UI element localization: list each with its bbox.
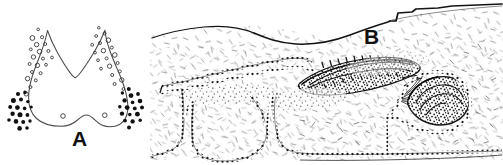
filled-dot-marker xyxy=(136,92,140,96)
filled-dot-marker xyxy=(138,99,143,104)
filled-dot-marker xyxy=(26,100,29,103)
filled-dot-marker xyxy=(15,105,20,110)
filled-dot-marker xyxy=(26,113,30,117)
filled-dot-marker xyxy=(8,105,12,109)
filled-dot-marker xyxy=(131,101,135,105)
filled-dot-marker xyxy=(128,113,132,117)
filled-dot-marker xyxy=(140,105,144,109)
filled-dot-marker xyxy=(129,93,134,98)
filled-dot-marker xyxy=(127,126,131,130)
filled-dot-marker xyxy=(19,98,23,102)
filled-dot-marker xyxy=(23,91,27,95)
filled-dot-marker xyxy=(135,112,140,117)
filled-dot-marker xyxy=(118,105,121,108)
filled-dot-marker xyxy=(122,98,126,102)
filled-dot-marker xyxy=(21,120,25,124)
filled-dot-marker xyxy=(139,119,142,122)
filled-dot-marker xyxy=(123,119,127,123)
filled-dot-marker xyxy=(127,87,131,91)
filled-dot-marker xyxy=(16,92,20,96)
filled-dot-marker xyxy=(11,98,16,103)
figure-root: A xyxy=(0,0,503,165)
filled-dot-marker xyxy=(7,118,11,122)
filled-dot-marker xyxy=(120,111,124,115)
panel-b: B xyxy=(150,0,503,165)
filled-dot-marker xyxy=(130,119,134,123)
filled-dot-marker xyxy=(133,107,137,111)
panel-b-drawing xyxy=(150,0,503,165)
filled-dot-marker xyxy=(28,119,31,122)
filled-dot-marker xyxy=(25,126,29,130)
filled-dot-marker xyxy=(23,107,27,111)
filled-dot-marker xyxy=(14,119,19,124)
panel-label-a: A xyxy=(72,128,87,149)
panel-label-b: B xyxy=(364,26,379,47)
filled-dot-marker xyxy=(121,91,124,94)
filled-dot-marker xyxy=(17,126,22,131)
filled-dot-marker xyxy=(10,112,14,116)
filled-dot-marker xyxy=(125,105,130,110)
filled-dot-marker xyxy=(30,105,33,108)
panel-a: A xyxy=(0,0,150,165)
filled-dot-marker xyxy=(18,112,23,117)
